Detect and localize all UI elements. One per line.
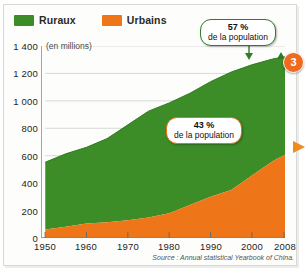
x-tick-label: 1980 — [158, 241, 180, 252]
pre-series-blank — [41, 46, 45, 238]
plot-area — [41, 46, 285, 238]
legend-item-ruraux: Ruraux — [14, 14, 76, 26]
area-chart-svg — [41, 46, 285, 238]
green-square-swatch — [14, 15, 34, 26]
source-note: Source : Annual statistical Yearbook of … — [152, 254, 294, 261]
urban-share-subtitle: de la population — [174, 130, 234, 140]
x-tick-label: 1990 — [200, 241, 222, 252]
rural-share-subtitle: de la population — [208, 32, 268, 42]
x-tick-label: 2008 — [274, 241, 296, 252]
legend-label-urbains: Urbains — [127, 14, 167, 26]
chart-figure: Ruraux Urbains (en millions) 1 400 1 200… — [0, 0, 308, 275]
urban-share-percent: 43 % — [174, 120, 234, 130]
y-tick-label: 1 400 — [13, 41, 38, 52]
y-axis-units-label: (en millions) — [46, 41, 92, 51]
y-axis-labels: 1 400 1 200 1 000 800 600 400 200 0 — [0, 0, 41, 275]
urban-share-callout: 43 % de la population — [166, 117, 242, 144]
x-tick-label: 1950 — [34, 241, 56, 252]
orange-square-swatch — [102, 15, 122, 26]
orange-pointer-arrow-icon — [292, 140, 306, 154]
y-tick-label: 400 — [22, 178, 38, 189]
y-tick-label: 1 000 — [13, 95, 38, 106]
rural-share-callout: 57 % de la population — [200, 19, 276, 46]
y-tick-label: 1 200 — [13, 68, 38, 79]
chart-legend: Ruraux Urbains — [14, 14, 167, 26]
step-badge-3[interactable]: 3 — [283, 52, 304, 73]
x-tick-label: 1970 — [117, 241, 139, 252]
x-tick-label: 2000 — [241, 241, 263, 252]
legend-item-urbains: Urbains — [102, 14, 167, 26]
y-tick-label: 200 — [22, 205, 38, 216]
x-tick-label: 1960 — [75, 241, 97, 252]
rural-share-percent: 57 % — [208, 22, 268, 32]
y-tick-label: 600 — [22, 150, 38, 161]
legend-label-ruraux: Ruraux — [39, 14, 76, 26]
y-tick-label: 800 — [22, 123, 38, 134]
rural-callout-stem — [243, 44, 255, 60]
